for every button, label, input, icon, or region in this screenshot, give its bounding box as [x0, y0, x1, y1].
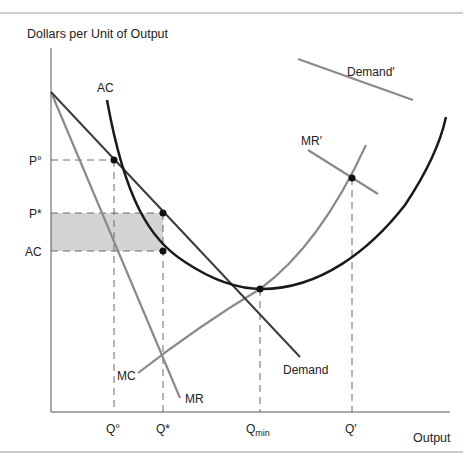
- y-tick-p-zero: P°: [29, 154, 42, 168]
- mc-curve: [138, 145, 366, 373]
- economics-diagram: Dollars per Unit of Output Output AC Dem…: [0, 0, 476, 467]
- ac-curve: [107, 100, 446, 289]
- x-tick-q-min: Qmin: [246, 422, 270, 438]
- mr-prime-label: MR′: [301, 134, 323, 148]
- q-min-sub: min: [255, 428, 270, 438]
- y-axis-label: Dollars per Unit of Output: [27, 27, 169, 41]
- mr-label: MR: [185, 392, 204, 406]
- y-tick-p-star: P*: [29, 207, 42, 221]
- q-min-base: Q: [246, 422, 255, 436]
- point-q-prime: [349, 175, 356, 182]
- x-axis-label: Output: [413, 431, 451, 445]
- y-tick-ac: AC: [25, 245, 42, 259]
- mr-prime-curve: [308, 150, 378, 194]
- demand-label: Demand: [283, 363, 328, 377]
- x-tick-q-star: Q*: [156, 422, 170, 436]
- x-tick-q-prime: Q′: [345, 422, 357, 436]
- demand-prime-label: Demand′: [347, 65, 395, 79]
- point-q-min: [257, 286, 264, 293]
- ac-curve-label: AC: [97, 81, 114, 95]
- point-ac-star: [160, 248, 167, 255]
- point-p-star: [160, 210, 167, 217]
- x-tick-q-zero: Q°: [106, 422, 120, 436]
- profit-area: [51, 213, 163, 251]
- point-p-zero: [111, 157, 118, 164]
- mc-label: MC: [117, 369, 136, 383]
